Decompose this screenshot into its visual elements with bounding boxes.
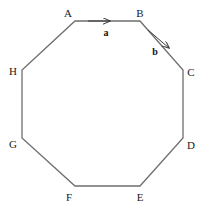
octagon-outline: [22, 21, 183, 186]
vector-label-a: a: [104, 28, 109, 38]
vertex-label-a: A: [64, 8, 72, 19]
octagon-vector-diagram: A B C D E F G H a b: [0, 0, 205, 219]
vertex-label-b: B: [136, 8, 143, 19]
vertex-label-f: F: [66, 192, 72, 203]
vertex-label-g: G: [9, 139, 17, 150]
vertex-label-c: C: [187, 67, 194, 78]
vector-b-arrow: [148, 30, 169, 48]
vertex-label-h: H: [9, 66, 17, 77]
vertex-label-e: E: [137, 192, 144, 203]
vector-label-b: b: [152, 47, 158, 57]
vertex-label-d: D: [187, 140, 195, 151]
octagon-drawing-canvas: [0, 0, 205, 219]
